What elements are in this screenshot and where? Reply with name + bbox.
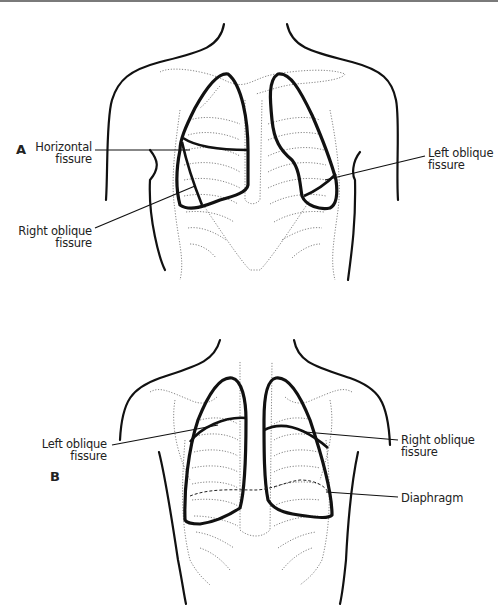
label-left-oblique-fissure-b: Left oblique fissure xyxy=(30,438,107,462)
left-lung-b xyxy=(185,378,246,524)
leader-diaphragm xyxy=(326,492,398,497)
leader-left-oblique-fissure xyxy=(325,156,425,180)
body-outline-right xyxy=(287,24,398,200)
label-right-oblique-fissure-b: Right oblique fissure xyxy=(401,434,498,458)
arm-line-left-b xyxy=(159,452,186,604)
horizontal-fissure-a xyxy=(183,138,248,150)
right-lung-b xyxy=(264,378,332,518)
label-diaphragm: Diaphragm xyxy=(401,492,491,504)
body-outline-left xyxy=(106,24,224,200)
label-horizontal-fissure: Horizontal fissure xyxy=(30,141,92,165)
leader-right-oblique-fissure xyxy=(95,186,195,228)
rib-cage-b xyxy=(150,362,352,585)
panel-label-a: A xyxy=(16,142,26,157)
figure-a-anterior xyxy=(95,24,425,280)
leader-right-oblique-fissure-b xyxy=(305,432,398,440)
arm-line-left xyxy=(150,150,165,270)
arm-line-right xyxy=(348,152,360,280)
panel-label-b: B xyxy=(50,469,60,484)
body-outline-left-b xyxy=(120,340,220,440)
figure-b-posterior xyxy=(112,340,398,604)
arm-line-right-b xyxy=(340,452,358,604)
left-lung-a xyxy=(270,74,336,209)
lung-diagram xyxy=(0,0,498,609)
body-outline-right-b xyxy=(294,340,390,445)
label-left-oblique-fissure-a: Left oblique fissure xyxy=(428,147,498,171)
rib-cage-a xyxy=(160,69,345,280)
left-oblique-fissure-a xyxy=(304,174,336,196)
label-right-oblique-fissure-a: Right oblique fissure xyxy=(10,225,92,249)
